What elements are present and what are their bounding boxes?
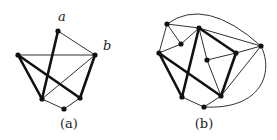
thin-edge (199, 28, 261, 46)
graph-node (201, 104, 206, 109)
thin-edge (182, 97, 204, 107)
thin-edge (167, 24, 199, 28)
graph-node (233, 50, 238, 55)
figure-b-graph (156, 14, 265, 110)
thin-edge (167, 24, 181, 44)
graph-node (15, 52, 20, 57)
node-label-a: a (58, 9, 66, 24)
graph-node (92, 52, 97, 57)
thin-edge (58, 31, 95, 55)
graph-diagram: (a) (b) a b (0, 0, 277, 140)
thick-edge (42, 31, 58, 99)
graph-node (178, 41, 183, 46)
thin-edge (159, 44, 181, 53)
thin-edge (236, 46, 261, 53)
graph-node (179, 94, 184, 99)
thin-edge (204, 96, 221, 107)
node-label-b: b (103, 38, 111, 53)
thick-edge (18, 55, 42, 99)
graph-node (61, 106, 66, 111)
graph-node (164, 21, 169, 26)
arc-edge (167, 14, 261, 46)
thin-edge (159, 24, 167, 53)
graph-node (156, 50, 161, 55)
thin-edge (42, 99, 64, 109)
caption-b: (b) (195, 116, 213, 131)
graph-node (204, 57, 209, 62)
graph-node (258, 43, 263, 48)
graph-node (55, 28, 60, 33)
thin-edge (64, 98, 80, 109)
graph-node (196, 25, 201, 30)
graph-node (218, 93, 223, 98)
graph-node (77, 95, 82, 100)
caption-a: (a) (60, 116, 78, 131)
thin-edge (221, 46, 261, 96)
thick-edge (221, 53, 236, 96)
thin-edge (207, 53, 236, 60)
thick-edge (18, 55, 80, 98)
thick-edge (182, 28, 199, 97)
graph-node (39, 96, 44, 101)
figure-a-graph (15, 28, 97, 111)
